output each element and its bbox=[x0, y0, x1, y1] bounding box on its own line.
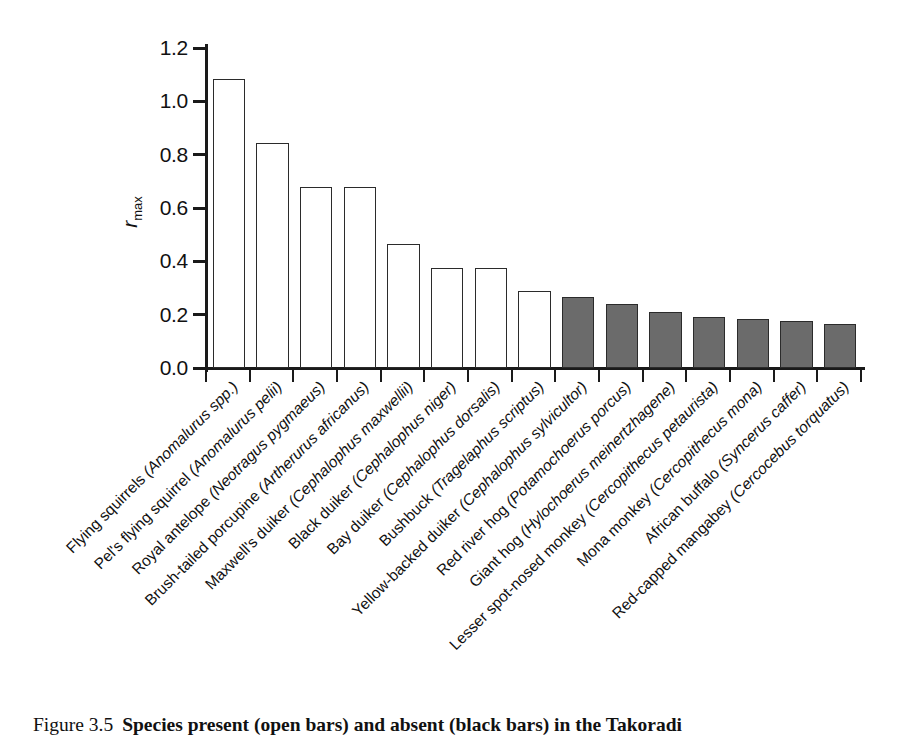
y-axis-title-symbol: r bbox=[118, 221, 141, 228]
bar bbox=[213, 79, 246, 368]
bar bbox=[300, 187, 333, 368]
y-axis-tick-label: 0.4 bbox=[140, 250, 188, 271]
bar bbox=[344, 187, 377, 368]
bars-layer bbox=[205, 48, 860, 368]
bar bbox=[606, 304, 639, 368]
figure-caption: Figure 3.5Species present (open bars) an… bbox=[33, 713, 878, 737]
caption-text: Species present (open bars) and absent (… bbox=[122, 714, 682, 735]
y-axis-tick-label: 1.0 bbox=[140, 90, 188, 111]
bar bbox=[431, 268, 464, 368]
bar bbox=[475, 268, 508, 368]
bar bbox=[256, 143, 289, 368]
bar bbox=[387, 244, 420, 368]
y-axis-title: rmax bbox=[118, 182, 158, 242]
x-axis-category-labels: Flying squirrels (Anomalurus spp.)Pel's … bbox=[0, 372, 903, 692]
bar bbox=[562, 297, 595, 368]
caption-number: Figure 3.5 bbox=[33, 714, 113, 735]
x-axis-category-label: Flying squirrels (Anomalurus spp.) bbox=[0, 378, 241, 752]
bar bbox=[824, 324, 857, 368]
category-common-name: Mona monkey bbox=[573, 486, 657, 570]
plot-area bbox=[205, 48, 860, 368]
bar bbox=[649, 312, 682, 368]
y-axis-tick-label: 1.2 bbox=[140, 37, 188, 58]
bar bbox=[737, 319, 770, 368]
bar bbox=[518, 291, 551, 368]
figure-container: 0.00.20.40.60.81.01.2 rmax Flying squirr… bbox=[0, 0, 903, 752]
bar bbox=[693, 317, 726, 368]
bar bbox=[780, 321, 813, 368]
y-axis-tick-label: 0.8 bbox=[140, 144, 188, 165]
y-axis-title-subscript: max bbox=[130, 196, 145, 221]
y-axis-tick-label: 0.2 bbox=[140, 304, 188, 325]
